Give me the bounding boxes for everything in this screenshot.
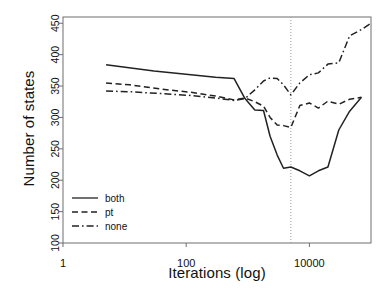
y-tick-label: 450 (49, 14, 61, 32)
y-tick-label: 100 (49, 234, 61, 252)
y-tick-label: 200 (49, 171, 61, 189)
y-axis-title: Number of states (20, 39, 37, 219)
legend-label-pt: pt (105, 207, 114, 218)
y-tick-label: 300 (49, 109, 61, 127)
y-tick-label: 350 (49, 77, 61, 95)
series-line-none (106, 23, 371, 100)
chart-figure: 100150200250300350400450 110010000 bothp… (0, 0, 388, 290)
y-axis-ticks: 100150200250300350400450 (49, 14, 63, 251)
y-tick-label: 150 (49, 203, 61, 221)
legend: bothptnone (72, 193, 128, 232)
legend-label-none: none (105, 221, 128, 232)
series-lines (106, 23, 371, 176)
x-axis-title: Iterations (log) (63, 264, 371, 281)
y-tick-label: 250 (49, 140, 61, 158)
y-tick-label: 400 (49, 46, 61, 64)
plot-canvas: 100150200250300350400450 110010000 bothp… (0, 0, 388, 290)
series-line-pt (106, 83, 361, 128)
series-line-both (106, 65, 361, 176)
legend-label-both: both (105, 193, 124, 204)
